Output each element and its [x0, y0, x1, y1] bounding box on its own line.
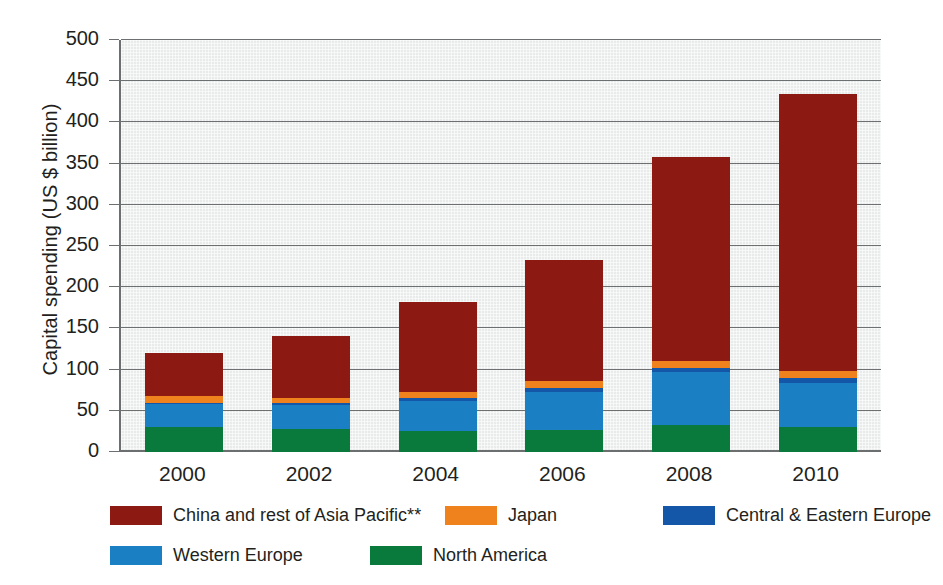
axis-baseline	[121, 450, 881, 452]
bar-segment	[652, 157, 730, 361]
y-axis-tick-mark	[109, 410, 119, 411]
y-axis-tick-label: 450	[35, 68, 99, 91]
y-axis-tick-mark	[109, 39, 119, 40]
chart-page: Capital spending (US $ billion) 05010015…	[0, 0, 943, 585]
bar-segment	[399, 392, 477, 399]
y-axis-tick-mark	[109, 121, 119, 122]
x-axis-tick-label: 2002	[249, 462, 369, 486]
y-axis-tick-label: 50	[35, 398, 99, 421]
bar-2008[interactable]	[652, 157, 730, 452]
y-axis-tick-mark	[109, 163, 119, 164]
gridline	[121, 80, 881, 81]
bar-segment	[399, 401, 477, 431]
y-axis-tick-label: 100	[35, 357, 99, 380]
y-axis-tick-mark	[109, 286, 119, 287]
bar-segment	[399, 302, 477, 392]
legend-swatch-icon	[445, 506, 497, 525]
legend-item[interactable]: Japan	[445, 505, 557, 526]
bar-segment	[525, 392, 603, 430]
legend-label: China and rest of Asia Pacific**	[173, 505, 421, 526]
gridline	[121, 369, 881, 370]
legend-swatch-icon	[110, 546, 162, 565]
bar-segment	[272, 405, 350, 429]
x-axis-tick-label: 2010	[756, 462, 876, 486]
bar-2000[interactable]	[145, 353, 223, 452]
gridline	[121, 245, 881, 246]
bar-segment	[145, 396, 223, 403]
legend-item[interactable]: China and rest of Asia Pacific**	[110, 505, 421, 526]
x-axis-tick-label: 2004	[376, 462, 496, 486]
bar-segment	[779, 383, 857, 427]
x-axis-tick-label: 2006	[502, 462, 622, 486]
legend-label: North America	[433, 545, 547, 566]
bar-2010[interactable]	[779, 94, 857, 452]
bar-segment	[145, 353, 223, 396]
legend-label: Central & Eastern Europe	[726, 505, 931, 526]
x-axis-tick-label: 2000	[122, 462, 242, 486]
y-axis-tick-label: 250	[35, 233, 99, 256]
y-axis-tick-mark	[109, 451, 119, 452]
bar-2006[interactable]	[525, 260, 603, 452]
bar-segment	[779, 427, 857, 452]
plot-area	[119, 40, 881, 452]
bar-segment	[272, 336, 350, 398]
y-axis-tick-label: 150	[35, 315, 99, 338]
legend-item[interactable]: Central & Eastern Europe	[663, 505, 931, 526]
y-axis-tick-mark	[109, 369, 119, 370]
y-axis-tick-label: 300	[35, 192, 99, 215]
bar-2004[interactable]	[399, 302, 477, 452]
legend-item[interactable]: North America	[370, 545, 547, 566]
legend-label: Western Europe	[173, 545, 303, 566]
bar-segment	[652, 372, 730, 425]
bar-segment	[525, 381, 603, 388]
bar-segment	[779, 94, 857, 372]
bar-segment	[145, 404, 223, 427]
y-axis-tick-label: 500	[35, 27, 99, 50]
chart-legend: China and rest of Asia Pacific**JapanCen…	[110, 505, 930, 523]
gridline	[121, 39, 881, 40]
gridline	[121, 327, 881, 328]
legend-item[interactable]: Western Europe	[110, 545, 303, 566]
bar-segment	[779, 371, 857, 378]
y-axis-tick-label: 200	[35, 274, 99, 297]
bar-segment	[399, 431, 477, 452]
bar-segment	[145, 427, 223, 452]
gridline	[121, 410, 881, 411]
gridline	[121, 286, 881, 287]
x-axis-tick-label: 2008	[629, 462, 749, 486]
y-axis-tick-mark	[109, 245, 119, 246]
y-axis-tick-mark	[109, 80, 119, 81]
legend-swatch-icon	[110, 506, 162, 525]
bar-2002[interactable]	[272, 336, 350, 452]
legend-swatch-icon	[663, 506, 715, 525]
legend-swatch-icon	[370, 546, 422, 565]
y-axis-tick-label: 400	[35, 109, 99, 132]
y-axis-tick-label: 350	[35, 151, 99, 174]
y-axis-tick-mark	[109, 204, 119, 205]
bar-segment	[652, 425, 730, 452]
legend-label: Japan	[508, 505, 557, 526]
bar-segment	[652, 361, 730, 368]
gridline	[121, 204, 881, 205]
bar-segment	[272, 429, 350, 452]
gridline	[121, 163, 881, 164]
gridline	[121, 121, 881, 122]
bar-segment	[525, 260, 603, 381]
y-axis-tick-label: 0	[35, 439, 99, 462]
y-axis-tick-mark	[109, 327, 119, 328]
bar-segment	[525, 430, 603, 452]
